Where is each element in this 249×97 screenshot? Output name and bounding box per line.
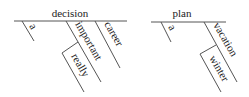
sub-modifier-word: really xyxy=(69,51,92,79)
sentence-diagrams: decision a important really career plan … xyxy=(0,0,249,97)
modifier-word: career xyxy=(102,19,126,49)
modifier-word: vacation xyxy=(211,20,240,59)
head-word: plan xyxy=(173,7,192,19)
modifier-word: a xyxy=(166,22,179,32)
head-word: decision xyxy=(52,7,89,19)
diagram-plan: plan a vacation winter xyxy=(151,7,241,92)
modifier-word: a xyxy=(27,21,40,31)
sub-modifier-word: winter xyxy=(207,53,232,84)
diagram-decision: decision a important really career xyxy=(14,7,127,92)
